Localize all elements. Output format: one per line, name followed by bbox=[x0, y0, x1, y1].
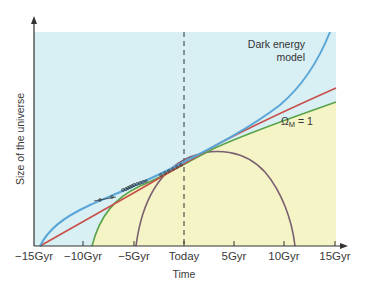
omega-equals: = 1 bbox=[295, 115, 313, 127]
dark-energy-label-line2: model bbox=[276, 51, 305, 63]
y-axis-title: Size of the universe bbox=[14, 93, 26, 185]
tick-label-15: 15Gyr bbox=[319, 250, 350, 262]
tick-label-minus15: −15Gyr bbox=[15, 250, 53, 262]
tick-label-today: Today bbox=[169, 250, 200, 262]
dark-energy-label-line1: Dark energy bbox=[248, 38, 306, 50]
x-axis-title: Time bbox=[173, 268, 196, 280]
tick-label-minus5: −5Gyr bbox=[118, 250, 150, 262]
y-axis-arrow-icon bbox=[31, 16, 37, 24]
x-axis-arrow-icon bbox=[340, 243, 348, 249]
tick-label-10: 10Gyr bbox=[268, 250, 299, 262]
omega-symbol: Ω bbox=[281, 115, 289, 127]
chart: −15Gyr −10Gyr −5Gyr Today 5Gyr 10Gyr 15G… bbox=[0, 0, 378, 291]
tick-label-5: 5Gyr bbox=[222, 250, 247, 262]
tick-label-minus10: −10Gyr bbox=[64, 250, 102, 262]
omega-m-label: ΩM = 1 bbox=[281, 115, 313, 129]
